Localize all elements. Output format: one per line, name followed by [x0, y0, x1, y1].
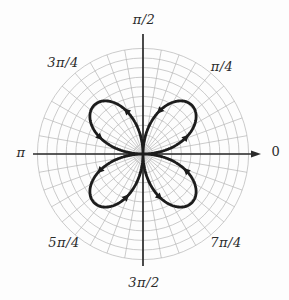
angle-label-pi: π — [16, 145, 25, 160]
angle-label-5pi-over-4: 5π/4 — [48, 235, 79, 250]
angle-label-3pi-over-4: 3π/4 — [47, 55, 78, 70]
angle-label-pi-over-4: π/4 — [211, 59, 234, 74]
angle-label-0: 0 — [272, 144, 281, 159]
angle-label-3pi-over-2: 3π/2 — [128, 275, 159, 290]
polar-rose-figure: π/2 3π/4 π/4 π 0 5π/4 7π/4 3π/2 — [0, 0, 289, 300]
x-axis-arrowhead-icon — [251, 150, 261, 157]
polar-plot — [0, 0, 289, 300]
angle-label-pi-over-2: π/2 — [133, 12, 156, 27]
angle-label-7pi-over-4: 7π/4 — [210, 235, 241, 250]
